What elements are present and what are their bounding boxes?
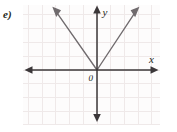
item-label: e) [3, 8, 12, 21]
x-axis-right-arrowhead [151, 66, 159, 74]
figure-container: e) [0, 0, 177, 132]
y-axis [93, 6, 101, 123]
graph-svg: y x 0 [23, 5, 160, 125]
coordinate-plane: y x 0 [23, 5, 160, 125]
origin-label: 0 [89, 73, 94, 83]
x-axis-label: x [148, 53, 154, 65]
grid-lines [23, 5, 160, 125]
y-axis-top-arrowhead [93, 6, 101, 14]
left-ray [57, 13, 97, 70]
y-axis-label: y [102, 6, 108, 18]
graph-curve [54, 8, 139, 70]
y-axis-bottom-arrowhead [93, 114, 101, 122]
right-ray [97, 13, 135, 70]
